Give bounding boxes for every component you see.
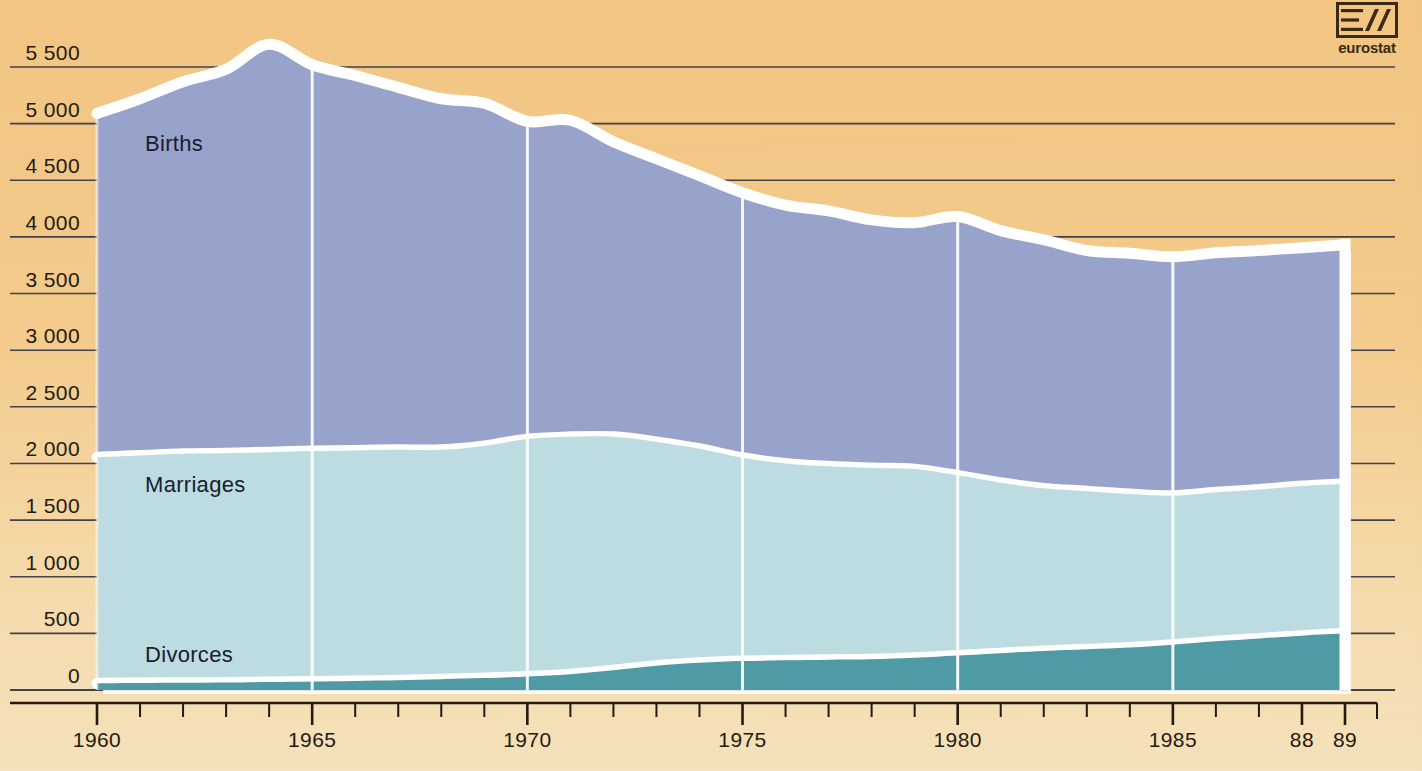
x-tick-label: 1960 xyxy=(52,728,142,752)
y-tick-label: 5 500 xyxy=(2,41,80,65)
series-label-divorces: Divorces xyxy=(145,642,233,668)
x-tick-label: 1965 xyxy=(267,728,357,752)
y-tick-label: 500 xyxy=(2,607,80,631)
x-tick-label: 1980 xyxy=(913,728,1003,752)
area-bands xyxy=(97,44,1351,694)
eurostat-logo: eurostat xyxy=(1328,2,1406,56)
y-tick-label: 4 500 xyxy=(2,154,80,178)
x-tick-label: 1970 xyxy=(482,728,572,752)
y-tick-label: 4 000 xyxy=(2,211,80,235)
series-label-marriages: Marriages xyxy=(145,472,246,498)
chart-page: 5 5005 0004 5004 0003 5003 0002 5002 000… xyxy=(0,0,1422,771)
y-tick-label: 1 500 xyxy=(2,494,80,518)
y-tick-label: 3 000 xyxy=(2,324,80,348)
x-tick-label: 1985 xyxy=(1128,728,1218,752)
y-tick-label: 3 500 xyxy=(2,268,80,292)
y-tick-label: 2 000 xyxy=(2,437,80,461)
eurostat-mark-icon xyxy=(1336,2,1398,38)
y-tick-label: 2 500 xyxy=(2,381,80,405)
x-tick-label: 89 xyxy=(1300,728,1390,752)
x-tick-label: 1975 xyxy=(698,728,788,752)
y-tick-label: 0 xyxy=(2,664,80,688)
series-label-births: Births xyxy=(145,131,203,157)
y-tick-label: 5 000 xyxy=(2,98,80,122)
x-axis xyxy=(10,703,1377,725)
y-tick-label: 1 000 xyxy=(2,551,80,575)
eurostat-wordmark: eurostat xyxy=(1328,39,1406,56)
